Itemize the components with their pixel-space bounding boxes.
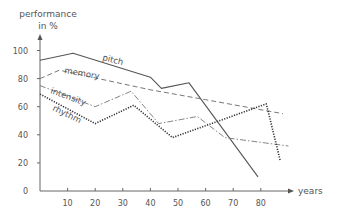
series-label-memory: memory	[64, 65, 101, 81]
x-tick-label: 50	[173, 199, 183, 208]
y-tick-label: 100	[13, 47, 28, 56]
y-axis-arrow-icon	[38, 34, 43, 40]
line-chart: performance in % years 10203040506070800…	[0, 0, 337, 217]
series-label-pitch: pitch	[102, 52, 125, 67]
x-tick-label: 80	[256, 199, 266, 208]
x-tick-label: 40	[145, 199, 155, 208]
y-tick-label: 40	[18, 131, 28, 140]
series-label-rhythm: rhythm	[51, 103, 83, 125]
y-tick-label: 20	[18, 159, 28, 168]
y-axis-label-line2: in %	[38, 21, 58, 31]
x-tick-label: 60	[201, 199, 211, 208]
x-tick-label: 70	[228, 199, 238, 208]
x-tick-label: 10	[63, 199, 73, 208]
y-tick-label: 60	[18, 103, 28, 112]
x-axis-label: years	[298, 186, 323, 196]
x-tick-label: 20	[90, 199, 100, 208]
y-tick-label: 80	[18, 75, 28, 84]
x-tick-label: 30	[118, 199, 128, 208]
y-axis-label-line1: performance	[19, 9, 77, 19]
x-axis-arrow-icon	[288, 189, 294, 194]
y-tick-label: 0	[23, 187, 28, 196]
